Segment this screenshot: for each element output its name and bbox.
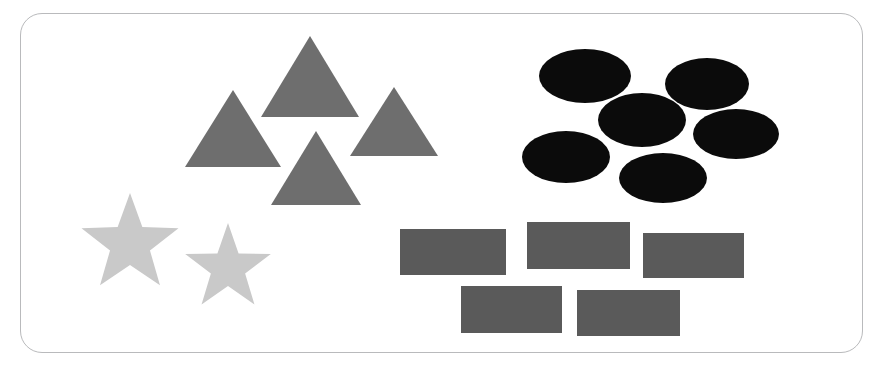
ellipse-bottom-left [522,131,610,183]
triangle-right [350,87,438,156]
ellipse-bottom-mid [619,153,707,203]
shape-diagram-canvas [0,0,880,373]
star-right [185,223,271,304]
ellipse-right [693,109,779,159]
shapes-layer [0,0,880,373]
ellipse-group [522,49,779,203]
rect-top-right [643,233,744,278]
rectangle-group [400,222,744,336]
ellipse-middle [598,93,686,147]
triangle-top [261,36,359,117]
triangle-left [185,90,281,167]
rect-top-left [400,229,506,275]
ellipse-top-left [539,49,631,103]
rect-bottom-right [577,290,680,336]
rect-top-center [527,222,630,269]
triangle-bottom [271,131,361,205]
triangle-group [185,36,438,205]
star-group [82,193,271,304]
rect-bottom-left [461,286,562,333]
star-left [82,193,179,285]
ellipse-top-right [665,58,749,110]
